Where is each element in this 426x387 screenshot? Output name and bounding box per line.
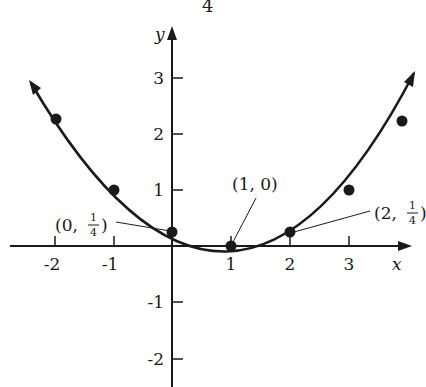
svg-text:-2: -2 xyxy=(44,254,61,274)
svg-text:): ) xyxy=(101,215,108,235)
y-ticks xyxy=(172,78,183,359)
x-axis-label: x xyxy=(392,254,402,274)
y-tick-labels: 3 2 1 -1 -2 xyxy=(147,68,164,369)
svg-text:4: 4 xyxy=(409,214,416,227)
svg-text:1: 1 xyxy=(90,211,97,224)
curve-left-arrow-icon xyxy=(29,80,41,95)
svg-text:1: 1 xyxy=(226,254,237,274)
svg-text:1: 1 xyxy=(153,180,164,200)
svg-text:-1: -1 xyxy=(147,292,164,312)
svg-text:(0,: (0, xyxy=(55,215,78,235)
x-ticks xyxy=(55,236,349,246)
svg-text:2: 2 xyxy=(285,254,296,274)
data-point xyxy=(109,185,120,196)
x-tick-labels: -2 -1 1 2 3 xyxy=(44,254,355,274)
data-point xyxy=(226,241,237,252)
x-axis-arrow-icon xyxy=(398,241,412,251)
curve-right-arrow-icon xyxy=(404,71,415,87)
page-number: 4 xyxy=(202,0,213,16)
data-point xyxy=(51,114,62,125)
svg-text:4: 4 xyxy=(90,226,97,239)
data-point xyxy=(397,116,408,127)
y-axis-label: y xyxy=(154,24,165,44)
chart-figure: 4 y x -2 -1 1 2 3 3 2 1 -1 -2 xyxy=(0,0,426,387)
data-point xyxy=(285,227,296,238)
annotation-0-quarter: (0, 1 4 ) xyxy=(55,211,108,239)
svg-text:3: 3 xyxy=(344,254,355,274)
data-point xyxy=(344,185,355,196)
svg-text:-1: -1 xyxy=(102,254,119,274)
y-axis-arrow-icon xyxy=(167,26,177,40)
svg-text:3: 3 xyxy=(153,68,164,88)
svg-text:1: 1 xyxy=(409,199,416,212)
chart-svg: 4 y x -2 -1 1 2 3 3 2 1 -1 -2 xyxy=(0,0,426,387)
svg-text:2: 2 xyxy=(153,124,164,144)
annotation-2-quarter: (2, 1 4 ) xyxy=(374,199,426,227)
data-point xyxy=(167,227,178,238)
annotation-leaders xyxy=(116,198,370,242)
svg-text:-2: -2 xyxy=(147,349,164,369)
annotation-1-0: (1, 0) xyxy=(232,174,278,194)
svg-text:(2,: (2, xyxy=(374,203,397,223)
svg-text:): ) xyxy=(420,203,426,223)
